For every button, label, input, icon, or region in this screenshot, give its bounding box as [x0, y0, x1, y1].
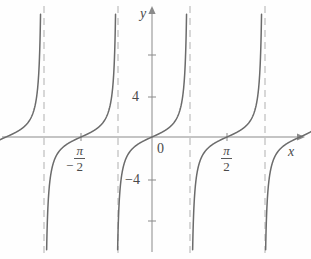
fraction-denominator: 2: [75, 159, 86, 173]
fraction-numerator: π: [221, 144, 232, 158]
x-tick-label-negative-pi-over-2: − π 2: [66, 144, 85, 173]
asymptote-group: [44, 6, 265, 257]
y-axis-arrowhead: [148, 6, 155, 14]
tangent-branch: [0, 14, 41, 145]
origin-label: 0: [157, 142, 164, 156]
fraction-numerator: π: [75, 144, 86, 158]
tangent-curve-group: [0, 14, 311, 250]
y-tick-label-4: 4: [132, 90, 139, 104]
tangent-branch: [266, 124, 311, 250]
plot-canvas: [0, 0, 311, 259]
y-axis-label: y: [140, 7, 146, 21]
tangent-branch: [193, 14, 262, 250]
x-tick-label-pi-over-2: π 2: [221, 144, 232, 173]
fraction-denominator: 2: [221, 159, 232, 173]
x-axis-label: x: [288, 145, 294, 159]
y-tick-label-negative-4: −4: [125, 173, 140, 187]
negative-sign: −: [66, 158, 74, 174]
fraction-stack: π 2: [221, 144, 232, 173]
fraction-stack: π 2: [74, 144, 85, 173]
tangent-function-figure: y x 0 4 −4 − π 2 π 2: [0, 0, 311, 259]
tickmark-group: [81, 55, 227, 221]
tangent-branch: [47, 14, 116, 250]
